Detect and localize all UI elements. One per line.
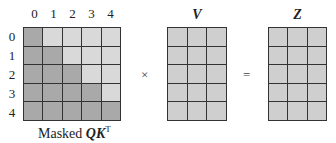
matrix-cell: [269, 84, 287, 102]
matrix-cell: [288, 65, 306, 83]
col-label-3: 3: [82, 7, 101, 21]
matrix-cell: [82, 65, 100, 83]
matrix-cell: [102, 65, 120, 83]
matrix-cell: [82, 47, 100, 65]
matrix-cell: [207, 28, 226, 46]
matrix-cell: [288, 47, 306, 65]
matrix-cell: [188, 102, 207, 120]
matrix-cell: [24, 84, 42, 102]
matrix-cell: [43, 102, 61, 120]
multiply-operator: ×: [141, 67, 148, 83]
matrix-cell: [102, 102, 120, 120]
row-label-0: 0: [6, 30, 18, 44]
matrix-cell: [269, 102, 287, 120]
matrix-cell: [43, 84, 61, 102]
matrix-cell: [168, 84, 187, 102]
z-title: Z: [268, 7, 327, 23]
row-label-3: 3: [6, 87, 18, 101]
matrix-cell: [308, 102, 326, 120]
matrix-cell: [63, 47, 81, 65]
matrix-cell: [288, 84, 306, 102]
row-label-4: 4: [6, 106, 18, 120]
matrix-cell: [269, 28, 287, 46]
matrix-cell: [308, 47, 326, 65]
matrix-cell: [168, 28, 187, 46]
row-label-2: 2: [6, 68, 18, 82]
matrix-cell: [24, 47, 42, 65]
matrix-cell: [168, 65, 187, 83]
equals-operator: =: [243, 67, 250, 83]
matrix-cell: [82, 28, 100, 46]
col-label-2: 2: [63, 7, 82, 21]
matrix-cell: [43, 65, 61, 83]
matrix-cell: [207, 102, 226, 120]
matrix-cell: [24, 28, 42, 46]
matrix-cell: [63, 28, 81, 46]
col-label-1: 1: [44, 7, 63, 21]
matrix-cell: [308, 28, 326, 46]
matrix-cell: [207, 47, 226, 65]
matrix-cell: [82, 102, 100, 120]
matrix-cell: [63, 84, 81, 102]
matrix-cell: [168, 47, 187, 65]
z-matrix: [268, 27, 327, 121]
matrix-cell: [43, 47, 61, 65]
matrix-cell: [269, 65, 287, 83]
matrix-cell: [207, 65, 226, 83]
caption-math: QK: [86, 126, 105, 141]
matrix-cell: [288, 102, 306, 120]
matrix-cell: [188, 28, 207, 46]
row-label-1: 1: [6, 49, 18, 63]
matrix-cell: [102, 28, 120, 46]
masked-qk-matrix: [23, 27, 121, 121]
v-title: V: [167, 7, 227, 23]
matrix-cell: [102, 47, 120, 65]
caption-prefix: Masked: [38, 126, 86, 141]
matrix-cell: [308, 84, 326, 102]
col-label-0: 0: [25, 7, 44, 21]
matrix-cell: [188, 84, 207, 102]
matrix-cell: [188, 47, 207, 65]
matrix-cell: [43, 28, 61, 46]
matrix-cell: [207, 84, 226, 102]
matrix-cell: [168, 102, 187, 120]
masked-qk-caption: Masked QKT: [38, 124, 111, 142]
col-label-4: 4: [101, 7, 120, 21]
matrix-cell: [269, 47, 287, 65]
v-matrix: [167, 27, 227, 121]
matrix-cell: [288, 28, 306, 46]
matrix-cell: [63, 65, 81, 83]
matrix-cell: [24, 65, 42, 83]
matrix-cell: [24, 102, 42, 120]
matrix-cell: [82, 84, 100, 102]
matrix-cell: [188, 65, 207, 83]
caption-sup: T: [105, 124, 111, 134]
matrix-cell: [308, 65, 326, 83]
matrix-cell: [102, 84, 120, 102]
matrix-cell: [63, 102, 81, 120]
